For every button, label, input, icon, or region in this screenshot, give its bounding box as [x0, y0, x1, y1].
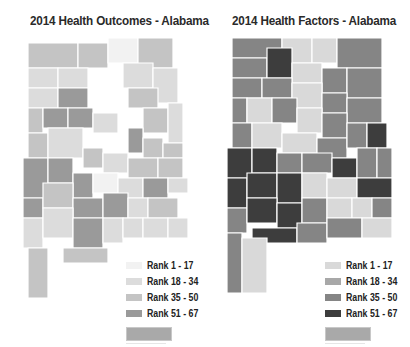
- legend-swatch: [325, 278, 341, 285]
- legend-label: Rank 1 - 17: [346, 260, 392, 271]
- legend-label: Rank 18 - 34: [147, 276, 198, 287]
- source-caption: [325, 343, 365, 344]
- health-factors-title: 2014 Health Factors - Alabama: [232, 13, 396, 28]
- legend-item: Rank 1 - 17: [126, 257, 205, 273]
- legend-swatch: [325, 294, 341, 301]
- legend-item: Rank 35 - 50: [325, 289, 404, 305]
- legend-item: Rank 51 - 67: [325, 305, 404, 321]
- health-outcomes-legend: Rank 1 - 17 Rank 18 - 34 Rank 35 - 50 Ra…: [126, 257, 205, 344]
- legend-swatch: [126, 278, 142, 285]
- legend-label: Rank 18 - 34: [346, 276, 397, 287]
- source-logo: [126, 327, 172, 341]
- legend-item: Rank 18 - 34: [126, 273, 205, 289]
- legend-item: Rank 18 - 34: [325, 273, 404, 289]
- legend-label: Rank 35 - 50: [346, 292, 397, 303]
- legend-swatch: [325, 262, 341, 269]
- legend-swatch: [126, 262, 142, 269]
- legend-item: Rank 35 - 50: [126, 289, 205, 305]
- legend-label: Rank 51 - 67: [346, 308, 397, 319]
- legend-label: Rank 35 - 50: [147, 292, 198, 303]
- legend-item: Rank 51 - 67: [126, 305, 205, 321]
- legend-label: Rank 1 - 17: [147, 260, 193, 271]
- source-caption: [126, 343, 166, 344]
- health-outcomes-title: 2014 Health Outcomes - Alabama: [30, 13, 209, 28]
- legend-label: Rank 51 - 67: [147, 308, 198, 319]
- legend-swatch: [126, 310, 142, 317]
- legend-swatch: [126, 294, 142, 301]
- legend-swatch: [325, 310, 341, 317]
- legend-item: Rank 1 - 17: [325, 257, 404, 273]
- source-logo: [325, 327, 371, 341]
- health-factors-legend: Rank 1 - 17 Rank 18 - 34 Rank 35 - 50 Ra…: [325, 257, 404, 344]
